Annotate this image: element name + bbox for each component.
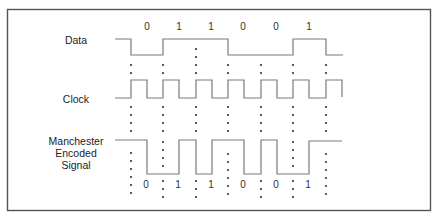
top-bit-5: 0 [273,21,279,32]
manchester-label-line-3: Signal [61,159,90,171]
bottom-bit-1: 0 [143,179,149,190]
top-bit-2: 1 [176,21,182,32]
data-signal-label: Data [65,34,87,46]
clock-signal-label: Clock [63,93,90,105]
manchester-label-line-1: Manchester [49,135,104,147]
manchester-encoding-diagram: Data Clock Manchester Encoded Signal 0 1… [0,0,434,218]
bottom-bit-2: 1 [175,179,181,190]
clock-waveform [115,80,342,98]
bottom-bit-6: 1 [305,179,311,190]
manchester-waveform [115,140,342,174]
manchester-label-line-2: Encoded [55,147,97,159]
top-bit-3: 1 [208,21,214,32]
top-bit-1: 0 [144,21,150,32]
top-bit-4: 0 [240,21,246,32]
bottom-bit-4: 0 [240,179,246,190]
bottom-bit-labels: 0 1 1 0 0 1 [143,179,311,190]
bottom-bit-5: 0 [273,179,279,190]
top-bit-6: 1 [306,21,312,32]
top-bit-labels: 0 1 1 0 0 1 [144,21,312,32]
bottom-bit-3: 1 [208,179,214,190]
timing-guide-dots [130,48,327,198]
data-waveform [115,39,343,55]
